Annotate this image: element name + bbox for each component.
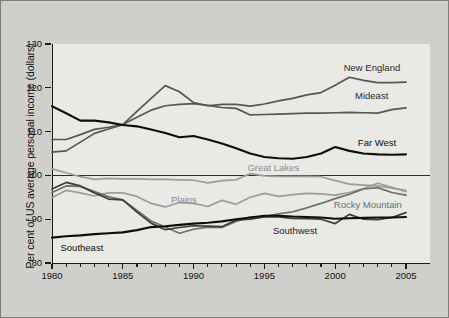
x-tick-label: 1995 xyxy=(244,270,284,281)
x-tick-label: 1985 xyxy=(103,270,143,281)
chart-figure: Per cent of US average personal income (… xyxy=(0,0,449,318)
series-label-southeast: Southeast xyxy=(60,242,103,253)
series-label-plains: Plains xyxy=(171,194,197,205)
y-tick-label: 130 xyxy=(8,38,42,49)
series-label-southwest: Southwest xyxy=(273,225,317,236)
x-tick-label: 1990 xyxy=(174,270,214,281)
y-tick-label: 110 xyxy=(8,126,42,137)
y-tick-label: 120 xyxy=(8,82,42,93)
x-tick-label: 1980 xyxy=(32,270,72,281)
y-tick-label: 80 xyxy=(8,257,42,268)
series-label-new-england: New England xyxy=(344,62,401,73)
series-label-mideast: Mideast xyxy=(355,90,388,101)
series-label-rocky-mountain: Rocky Mountain xyxy=(334,199,402,210)
y-tick-label: 90 xyxy=(8,213,42,224)
x-tick-label: 2000 xyxy=(315,270,355,281)
y-tick-label: 100 xyxy=(8,169,42,180)
x-tick-label: 2005 xyxy=(386,270,426,281)
series-label-far-west: Far West xyxy=(358,137,396,148)
series-label-great-lakes: Great Lakes xyxy=(247,162,299,173)
